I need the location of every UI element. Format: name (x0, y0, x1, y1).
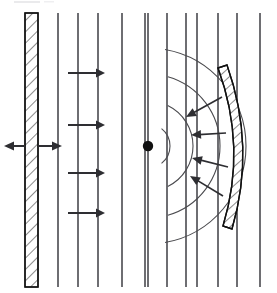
wave-diagram-canvas (0, 0, 277, 293)
circular-wavefront-arc-1 (162, 129, 170, 164)
propagation-arrow-1 (68, 68, 105, 77)
circular-wavefront-arc-2 (168, 106, 193, 187)
circular-wavefront-arc-3 (168, 77, 220, 215)
plane-wavefront-group (58, 13, 260, 287)
propagation-arrow-3 (68, 168, 105, 177)
point-source-dot (143, 141, 153, 151)
propagation-arrow-2 (68, 120, 105, 129)
flat-hatched-wall (25, 13, 38, 287)
propagation-arrow-group (68, 68, 105, 217)
wave-diagram-figure (0, 0, 277, 293)
focusing-arrow-2 (191, 130, 226, 139)
focusing-arrow-group (186, 97, 228, 196)
propagation-arrow-4 (68, 208, 105, 217)
top-edge-artifact (14, 1, 54, 3)
